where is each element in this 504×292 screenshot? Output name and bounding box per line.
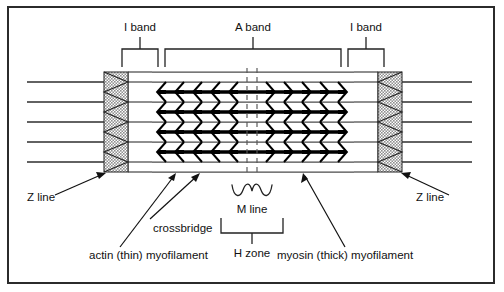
m-line-wavy-brace [232,184,272,195]
m-line-label: M line [237,203,268,215]
sarcomere-diagram-figure: I band A band I band [0,0,504,292]
callout-arrow-myosin [301,173,345,247]
actin-tails-left [27,82,104,162]
actin-label: actin (thin) myofilament [89,249,209,261]
i-band-left-label: I band [124,21,156,33]
z-line-right [378,72,402,172]
callout-arrow-actin [120,173,176,247]
z-line-left [104,72,128,172]
callout-arrow-crossbridge [150,173,200,219]
actin-i-band-right [354,72,378,172]
callout-arrow-z-line-left [55,172,106,195]
i-band-left-bracket [122,37,158,67]
i-band-right-bracket [348,37,384,67]
a-band-label: A band [235,21,271,33]
z-line-right-label: Z line [416,191,444,203]
h-zone-bracket [221,218,283,244]
h-zone-label: H zone [234,247,270,259]
myosin-label: myosin (thick) myofilament [277,249,414,261]
z-line-left-label: Z line [27,191,55,203]
crossbridge-label: crossbridge [153,222,212,234]
actin-i-band-left [128,72,152,172]
a-band-bracket [165,37,341,67]
i-band-right-label: I band [350,21,382,33]
actin-tails-right [402,82,472,162]
sarcomere-svg-canvas: I band A band I band [0,0,504,292]
